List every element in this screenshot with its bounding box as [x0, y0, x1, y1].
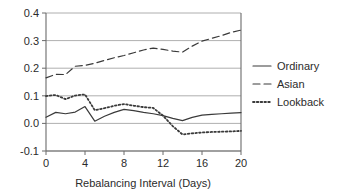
- y-axis-tick-labels: 0.40.30.20.10.0-0.1: [20, 7, 39, 157]
- x-tick-label: 4: [82, 157, 88, 169]
- y-tick-label: 0.0: [24, 117, 39, 129]
- x-tick-label: 0: [43, 157, 49, 169]
- y-tick-label: 0.2: [24, 62, 39, 74]
- axis-tick-marks: [42, 13, 241, 155]
- y-tick-label: 0.1: [24, 90, 39, 102]
- y-tick-label: 0.3: [24, 35, 39, 47]
- series-line-ordinary: [46, 107, 241, 122]
- gridlines: [46, 13, 241, 151]
- legend-label-ordinary: Ordinary: [277, 60, 320, 72]
- x-tick-label: 12: [157, 157, 169, 169]
- x-axis-tick-labels: 048121620: [43, 157, 247, 169]
- chart-legend: OrdinaryAsianLookback: [253, 60, 325, 108]
- data-series: [46, 30, 241, 134]
- legend-label-lookback: Lookback: [277, 96, 325, 108]
- y-tick-label: -0.1: [20, 145, 39, 157]
- x-tick-label: 8: [121, 157, 127, 169]
- chart-container: 0.40.30.20.10.0-0.1 048121620 OrdinaryAs…: [0, 0, 339, 195]
- x-axis-title: Rebalancing Interval (Days): [75, 177, 211, 189]
- line-chart: 0.40.30.20.10.0-0.1 048121620 OrdinaryAs…: [0, 0, 339, 195]
- series-line-asian: [46, 30, 241, 78]
- legend-label-asian: Asian: [277, 78, 305, 90]
- y-tick-label: 0.4: [24, 7, 39, 19]
- x-tick-label: 16: [196, 157, 208, 169]
- chart-axes: [46, 13, 241, 151]
- x-tick-label: 20: [235, 157, 247, 169]
